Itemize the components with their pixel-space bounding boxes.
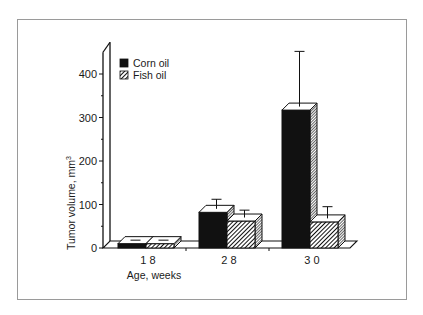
legend-swatch [120, 71, 128, 79]
y-tick-label: 400 [79, 68, 97, 80]
legend-swatch [120, 59, 128, 67]
y-tick-label: 200 [79, 155, 97, 167]
bar-corn-oil-30 [282, 51, 317, 248]
x-axis-title: Age, weeks [127, 269, 181, 281]
legend-label: Corn oil [133, 57, 169, 69]
y-axis-title: Tumor volume, mm3 [65, 156, 77, 250]
y-tick-label: 0 [91, 242, 97, 254]
x-tick-label: 3 0 [304, 254, 319, 266]
bar-fish-oil-28 [227, 210, 262, 248]
x-tick-label: 2 8 [221, 254, 236, 266]
x-tick-label: 1 8 [140, 254, 155, 266]
legend-label: Fish oil [133, 69, 166, 81]
y-tick-label: 100 [79, 199, 97, 211]
bar-fish-oil-18 [146, 237, 181, 248]
bar-chart: 0100200300400 Corn oilFish oil 1 82 83 0… [0, 0, 423, 315]
legend: Corn oilFish oil [120, 57, 169, 81]
y-tick-label: 300 [79, 112, 97, 124]
